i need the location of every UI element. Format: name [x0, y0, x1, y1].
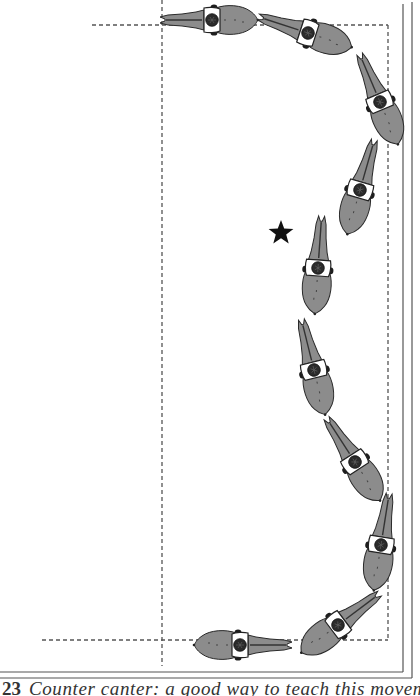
- caption-number: 23: [2, 678, 21, 696]
- horse-and-rider-1: [160, 4, 259, 35]
- figure-caption: 23Counter canter: a good way to teach th…: [2, 679, 420, 696]
- page-frame: [0, 2, 412, 678]
- horse-and-rider-6: [286, 316, 340, 420]
- arena-track: [42, 0, 388, 666]
- horse-and-rider-2: [254, 2, 358, 62]
- horse-and-rider-8: [358, 491, 404, 594]
- horse-and-rider-9: [291, 581, 389, 666]
- arena-diagram: [0, 0, 420, 696]
- caption-text: Counter canter: a good way to teach this…: [29, 678, 420, 696]
- horse-and-rider-10: [193, 629, 292, 660]
- horse-sequence: [160, 2, 413, 666]
- star-icon: [269, 220, 294, 243]
- horse-and-rider-5: [299, 215, 337, 316]
- horse-and-rider-4: [332, 136, 389, 240]
- horse-and-rider-7: [314, 410, 394, 510]
